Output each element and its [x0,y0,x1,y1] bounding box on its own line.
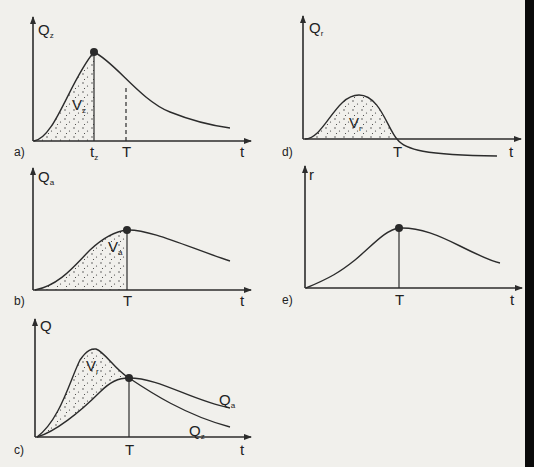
y-axis-label: Qr [309,19,324,38]
panel-e: r e) T t [282,166,522,308]
tick-T: T [122,143,131,160]
tick-T: T [393,143,402,160]
tick-T: T [395,291,404,308]
intersection-point [125,374,133,382]
x-axis-label: t [240,143,245,160]
scan-edge-border [525,0,534,467]
peak-point [123,226,131,234]
y-axis-label: Qa [38,168,55,187]
y-axis-label: r [309,166,314,183]
qz-curve-label: Qz [189,422,205,441]
x-axis-label: t [240,292,245,309]
panel-label: d) [282,145,293,159]
tick-T: T [125,441,134,458]
qa-curve-label: Qa [219,391,236,410]
x-axis-label: t [240,441,245,458]
panel-b: Qa Va b) T t [14,168,251,309]
x-axis-label: t [510,291,515,308]
peak-point [90,48,98,56]
peak-point [395,224,403,232]
y-axis-label: Q [40,317,52,334]
area-vr [37,349,129,437]
y-axis-label: Qz [38,21,54,40]
panel-d: Qr Vr d) T t [282,16,521,160]
x-axis-label: t [509,143,514,160]
hydrograph-figure: Qz Vz a) tz T t Qr Vr d) T t Qa Va b) T … [0,0,534,467]
tick-tz: tz [90,143,98,162]
r-curve [306,228,500,288]
panel-label: b) [14,294,25,308]
panel-label: e) [282,293,293,307]
qz-curve [37,349,230,437]
panel-a: Qz Vz a) tz T t [14,17,251,162]
tick-T: T [123,292,132,309]
panel-c: Q Vr Qa Qz c) T t [14,317,251,458]
panel-label: c) [14,443,24,457]
panel-label: a) [14,145,25,159]
